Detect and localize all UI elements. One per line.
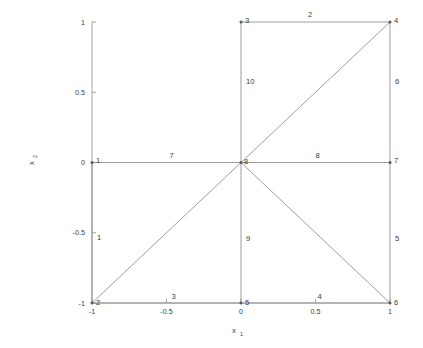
node-labels-group: 12345678	[96, 16, 398, 307]
mesh-node-dot	[91, 302, 94, 305]
x-tick-label: -0.5	[160, 307, 172, 316]
mesh-node-label: 6	[394, 298, 398, 307]
y-tick-label: -0.5	[73, 228, 85, 237]
mesh-edge-label: 4	[318, 292, 322, 301]
mesh-node-dot	[240, 21, 243, 24]
x-axis-title: x 1	[232, 326, 243, 337]
y-axis-title: x 2	[27, 155, 38, 165]
mesh-node-dot	[240, 161, 243, 164]
mesh-figure: 12345678910 12345678 -1-0.500.5110.50-0.…	[0, 0, 423, 348]
mesh-node-label: 2	[96, 298, 100, 307]
mesh-edge-label: 1	[97, 233, 101, 242]
mesh-node-label: 3	[245, 16, 249, 25]
mesh-plot-canvas: 12345678910 12345678 -1-0.500.5110.50-0.…	[0, 0, 423, 348]
y-tick-label: 0	[81, 158, 85, 167]
mesh-node-label: 4	[394, 16, 398, 25]
y-tick-label: 0.5	[75, 88, 85, 97]
mesh-diagonal	[241, 163, 390, 304]
mesh-edge-label: 7	[169, 151, 173, 160]
x-tick-label: 0.5	[311, 307, 321, 316]
mesh-edge-label: 8	[316, 151, 320, 160]
mesh-node-label: 5	[245, 298, 249, 307]
y-tick-label: 1	[81, 18, 85, 27]
y-axis-title-subscript: 2	[32, 155, 38, 158]
mesh-node-label: 7	[394, 156, 398, 165]
x-tick-label: 0	[239, 307, 243, 316]
mesh-edge-label: 5	[395, 234, 399, 243]
mesh-edge-label: 9	[246, 234, 250, 243]
tick-labels-group: -1-0.500.5110.50-0.5-1	[73, 18, 392, 316]
x-axis-title-base: x	[232, 326, 236, 335]
mesh-node-dot	[389, 161, 392, 164]
mesh-node-dot	[240, 302, 243, 305]
mesh-edge-label: 2	[308, 10, 312, 19]
mesh-edge-label: 6	[395, 77, 399, 86]
mesh-diagonal	[92, 163, 241, 304]
mesh-node-label: 8	[244, 157, 248, 166]
x-axis-title-subscript: 1	[240, 331, 243, 337]
mesh-edge-label: 10	[246, 77, 254, 86]
mesh-node-label: 1	[96, 156, 100, 165]
x-tick-label: 1	[388, 307, 392, 316]
y-axis-title-base: x	[27, 161, 36, 165]
x-tick-label: -1	[89, 307, 95, 316]
mesh-edge-label: 3	[171, 292, 175, 301]
mesh-node-dot	[389, 302, 392, 305]
mesh-node-dot	[389, 21, 392, 24]
mesh-node-dot	[91, 161, 94, 164]
mesh-diagonal	[241, 22, 390, 163]
y-tick-label: -1	[79, 299, 85, 308]
